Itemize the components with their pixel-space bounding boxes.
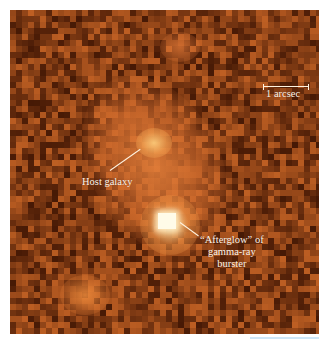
scale-bar-line	[263, 86, 309, 87]
bottom-edge-strip	[250, 337, 319, 339]
astronomical-image: 1 arcsec Host galaxy “Afterglow” of gamm…	[10, 10, 319, 334]
afterglow-label-line1: “Afterglow” of	[200, 234, 264, 246]
host-galaxy-label: Host galaxy	[82, 176, 132, 188]
afterglow-label-line2: gamma-ray	[200, 246, 264, 258]
afterglow-point-source	[158, 213, 176, 229]
afterglow-label-line3: burster	[200, 258, 264, 270]
afterglow-label: “Afterglow” of gamma-ray burster	[200, 234, 264, 270]
scale-bar-tick-left	[263, 84, 264, 90]
pixel-noise-background	[10, 10, 319, 334]
scale-bar-tick-right	[308, 84, 309, 90]
scale-label: 1 arcsec	[266, 88, 300, 100]
